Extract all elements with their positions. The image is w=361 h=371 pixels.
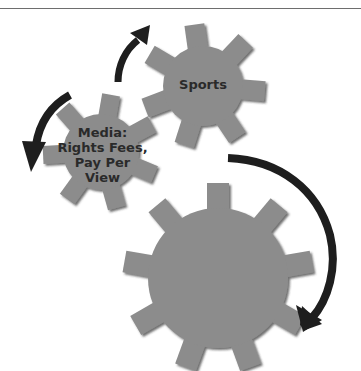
arrow-top-icon xyxy=(118,25,150,82)
gears-diagram xyxy=(0,0,361,371)
media-label-line-3: Pay Per xyxy=(55,155,150,170)
media-label-line-1: Media: xyxy=(55,125,150,140)
media-label-line-2: Rights Fees, xyxy=(55,140,150,155)
media-gear-label: Media: Rights Fees, Pay Per View xyxy=(55,125,150,185)
large-gear xyxy=(123,183,314,371)
media-label-line-4: View xyxy=(55,170,150,185)
sports-gear-label: Sports xyxy=(168,77,238,92)
